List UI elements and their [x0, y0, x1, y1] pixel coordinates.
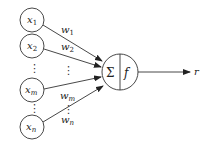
svg-text:xm: xm: [25, 84, 38, 97]
activation-symbol: f: [123, 66, 131, 80]
svg-text:xn: xn: [26, 121, 37, 134]
svg-text:x1: x1: [27, 14, 37, 27]
input-ellipsis-upper: ⋮: [29, 62, 40, 75]
input-ellipsis-lower: ⋮: [29, 102, 40, 115]
sum-symbol: Σ: [106, 66, 114, 80]
weight-label-w1: w1: [61, 24, 74, 37]
input-node-x1: x1: [20, 8, 44, 32]
weight-ellipsis-upper: ⋮: [63, 64, 74, 77]
input-node-xn: xn: [20, 115, 44, 139]
svg-text:x2: x2: [27, 40, 37, 53]
input-node-xm: xm: [20, 78, 44, 102]
input-node-x2: x2: [20, 34, 44, 58]
weight-ellipsis-lower: ⋮: [63, 103, 74, 116]
neuron-diagram: x1 x2 xm xn ⋮ ⋮ w1 w2 wm wn ⋮ ⋮ Σ f r: [0, 0, 207, 146]
connection-wm: [44, 77, 101, 89]
output-label: r: [194, 66, 200, 77]
weight-label-wm: wm: [60, 90, 76, 103]
neuron-node: Σ f: [102, 54, 138, 90]
